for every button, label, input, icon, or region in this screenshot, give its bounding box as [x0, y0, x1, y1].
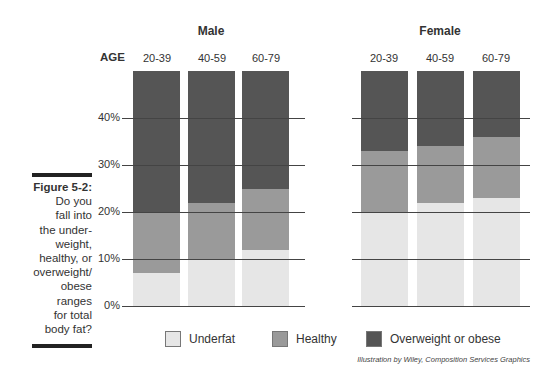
caption-bottom-rule: [32, 344, 92, 348]
bar-segment-overweight: [361, 71, 408, 151]
caption-line: obese: [0, 279, 92, 293]
bar-segment-overweight: [133, 71, 180, 212]
legend-item-overweight: Overweight or obese: [366, 331, 501, 347]
bar-segment-overweight: [473, 71, 520, 137]
gridline: [352, 165, 530, 166]
gridline: [122, 118, 305, 119]
bar-segment-healthy: [473, 137, 520, 198]
bar-male-20-39: [133, 71, 180, 306]
caption-line: ranges: [0, 294, 92, 308]
gridline: [122, 212, 305, 213]
bar-female-20-39: [361, 71, 408, 306]
bar-segment-healthy: [133, 212, 180, 273]
figure-label: Figure 5-2:: [0, 180, 92, 194]
caption-line: healthy, or: [0, 251, 92, 265]
bar-female-40-59: [417, 71, 464, 306]
female-col-label: 40-59: [416, 52, 464, 64]
male-col-label: 60-79: [242, 52, 290, 64]
y-tick-label: 20%: [80, 205, 120, 217]
caption-line: Do you: [0, 194, 92, 208]
legend-label: Underfat: [189, 332, 235, 346]
male-col-label: 20-39: [133, 52, 181, 64]
gridline: [352, 306, 530, 307]
gridline: [122, 306, 305, 307]
group-title-male: Male: [131, 24, 291, 38]
bar-segment-healthy: [361, 151, 408, 212]
bar-male-40-59: [188, 71, 235, 306]
y-tick-label: 10%: [80, 252, 120, 264]
bar-segment-overweight: [417, 71, 464, 146]
bar-male-60-79: [242, 71, 289, 306]
age-axis-label: AGE: [100, 51, 125, 63]
bar-female-60-79: [473, 71, 520, 306]
caption-top-rule: [32, 173, 92, 177]
bar-segment-underfat: [417, 203, 464, 306]
female-col-label: 60-79: [472, 52, 520, 64]
bar-segment-healthy: [417, 146, 464, 202]
gridline: [352, 212, 530, 213]
bar-segment-overweight: [242, 71, 289, 189]
caption-line: for total: [0, 308, 92, 322]
legend-label: Healthy: [296, 332, 337, 346]
gridline: [352, 259, 530, 260]
caption-line: weight,: [0, 237, 92, 251]
caption-line: the under-: [0, 223, 92, 237]
caption-line: fall into: [0, 208, 92, 222]
legend-item-underfat: Underfat: [165, 331, 235, 347]
gridline: [122, 165, 305, 166]
legend-label: Overweight or obese: [390, 332, 501, 346]
legend-swatch-healthy: [272, 331, 288, 347]
bar-segment-underfat: [133, 273, 180, 306]
legend-swatch-overweight: [366, 331, 382, 347]
caption-line: body fat?: [0, 322, 92, 336]
female-col-label: 20-39: [360, 52, 408, 64]
bar-segment-healthy: [242, 189, 289, 250]
y-tick-label: 0%: [80, 299, 120, 311]
legend-swatch-underfat: [165, 331, 181, 347]
male-col-label: 40-59: [188, 52, 236, 64]
caption-line: overweight/: [0, 265, 92, 279]
bar-segment-overweight: [188, 71, 235, 203]
figure-caption: Figure 5-2: Do you fall into the under- …: [0, 180, 92, 336]
y-tick-label: 40%: [80, 111, 120, 123]
bar-segment-underfat: [188, 259, 235, 306]
bar-segment-underfat: [473, 198, 520, 306]
gridline: [122, 259, 305, 260]
gridline: [352, 118, 530, 119]
legend-item-healthy: Healthy: [272, 331, 337, 347]
group-title-female: Female: [360, 24, 520, 38]
y-tick-label: 30%: [80, 158, 120, 170]
illustration-credit: Illustration by Wiley, Composition Servi…: [357, 355, 530, 364]
